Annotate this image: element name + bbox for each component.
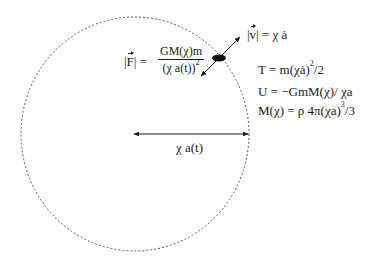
velocity-rhs: = χ ȧ — [262, 27, 287, 42]
radius-label: χ a(t) — [176, 141, 203, 154]
force-denominator-exp: 2 — [195, 58, 199, 67]
force-abs-close: | = — [134, 54, 147, 69]
force-denominator: (χ a(t))2 — [158, 60, 204, 74]
mass-text: M(χ) = ρ 4π(χa) — [258, 103, 341, 118]
kinetic-energy-equation: T = m(χȧ)2/2 — [258, 63, 324, 76]
force-lhs: |F| = — [124, 55, 147, 68]
mass-tail: /3 — [345, 103, 355, 118]
potential-text: U = −GmM(χ)/ χa — [258, 84, 352, 99]
mass-exp: 3 — [341, 100, 345, 109]
force-denominator-base: (χ a(t)) — [163, 61, 196, 75]
test-particle — [212, 55, 226, 62]
enclosed-mass-equation: M(χ) = ρ 4π(χa)3/3 — [258, 104, 355, 117]
force-fraction: GM(χ)m (χ a(t))2 — [158, 45, 204, 74]
velocity-vector-symbol: v — [250, 28, 257, 41]
kinetic-text: T = m(χȧ) — [258, 62, 310, 77]
kinetic-exp: 2 — [310, 59, 314, 68]
diagram-canvas — [0, 0, 365, 259]
velocity-label: |v| = χ ȧ — [247, 28, 287, 41]
force-vector-symbol: F — [127, 55, 134, 68]
potential-energy-equation: U = −GmM(χ)/ χa — [258, 85, 352, 98]
kinetic-tail: /2 — [314, 62, 324, 77]
velocity-abs-close: | — [256, 27, 259, 42]
